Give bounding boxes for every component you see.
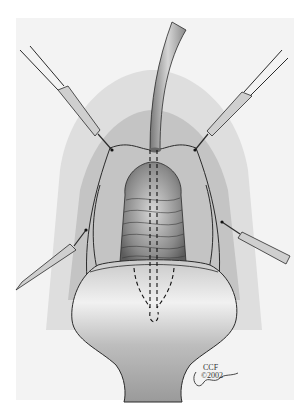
- credit-year: ©2002: [201, 371, 223, 380]
- cavity: [120, 162, 186, 272]
- speculum-base: [72, 260, 237, 402]
- surgical-illustration: [0, 0, 307, 418]
